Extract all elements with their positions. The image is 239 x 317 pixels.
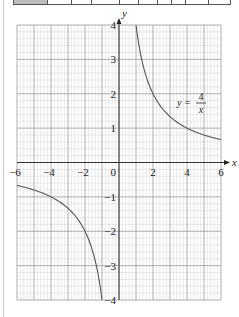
equation-denominator: x <box>198 104 204 115</box>
equation-numerator: 4 <box>199 91 204 102</box>
y-tick-label: −4 <box>104 294 116 306</box>
x-tick-label: −4 <box>43 166 55 178</box>
y-axis-label: y <box>121 7 127 19</box>
x-axis-label: x <box>231 156 237 168</box>
equation-label: y = 4 x <box>176 91 206 115</box>
x-tick-label: −6 <box>9 166 21 178</box>
y-tick-label: 1 <box>111 122 117 134</box>
y-tick-label: −3 <box>104 260 116 272</box>
y-tick-label: 2 <box>111 88 117 100</box>
y-tick-label: −2 <box>104 225 116 237</box>
curve-branch-positive <box>136 25 221 140</box>
curve-branch-negative <box>17 185 102 300</box>
x-tick-label: −2 <box>77 166 89 178</box>
equation-lhs: y = <box>176 97 191 108</box>
x-tick-label: 4 <box>184 166 190 178</box>
x-tick-label: 2 <box>150 166 156 178</box>
x-tick-label: 6 <box>218 166 224 178</box>
origin-label: 0 <box>111 166 117 178</box>
graph-reciprocal-function: −6−4−22464321−1−2−3−40xy y = 4 x <box>0 0 239 317</box>
y-tick-label: −1 <box>104 191 116 203</box>
tick-labels: −6−4−22464321−1−2−3−40xy <box>9 7 237 306</box>
y-tick-label: 4 <box>111 19 117 31</box>
y-tick-label: 3 <box>111 53 117 65</box>
axes <box>17 18 230 300</box>
